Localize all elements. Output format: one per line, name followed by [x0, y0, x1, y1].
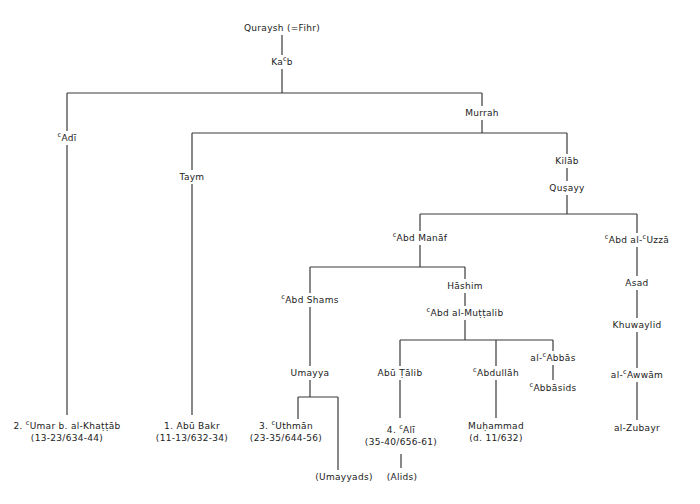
node-muhammad: Muḥammad(d. 11/632) [466, 419, 526, 445]
node-quraysh: Quraysh (=Fihr) [242, 21, 322, 35]
node-al-abbas: al-cAbbās [528, 351, 577, 365]
genealogy-diagram: Quraysh (=Fihr) Kacb cAdī Murrah Taym Ki… [0, 0, 700, 504]
node-hashim: Hāshim [445, 279, 485, 293]
node-murrah: Murrah [463, 106, 501, 120]
node-qusayy: Quṣayy [547, 181, 586, 195]
node-adi: cAdī [56, 131, 79, 145]
node-asad: Asad [623, 276, 650, 290]
node-umar: 2. cUmar b. al-Khaṭṭāb(13-23/634-44) [11, 419, 122, 445]
node-kilab: Kilāb [553, 154, 581, 168]
node-abd-manaf: cAbd Manāf [391, 231, 450, 245]
node-kaab: Kacb [269, 55, 295, 69]
node-alids: (Alids) [385, 470, 420, 484]
node-abu-talib: Abū Ṭālib [376, 366, 425, 380]
node-umayya: Umayya [289, 366, 332, 380]
node-uthman: 3. cUthmān(23-35/644-56) [248, 419, 324, 445]
node-abd-al-uzza: cAbd al-cUzzā [603, 233, 671, 247]
node-umayyads: (Umayyads) [313, 470, 374, 484]
node-abd-al-muttalib: cAbd al-Muṭṭalib [425, 306, 506, 320]
node-taym: Taym [178, 170, 207, 184]
node-ali: 4. cAlī(35-40/656-61) [363, 423, 439, 449]
node-al-zubayr: al-Zubayr [612, 421, 662, 435]
node-abu-bakr: 1. Abū Bakr(11-13/632-34) [154, 419, 230, 445]
node-abd-shams: cAbd Shams [279, 293, 340, 307]
node-al-awwam: al-cAwwām [609, 368, 665, 382]
node-abdullah: cAbdullāh [471, 366, 521, 380]
node-khuwaylid: Khuwaylid [611, 318, 664, 332]
node-abbasids: cAbbāsids [528, 381, 579, 395]
